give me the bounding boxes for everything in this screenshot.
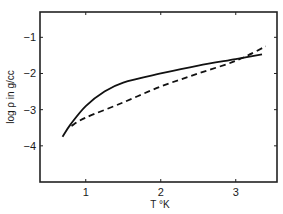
x-axis-label: T °K xyxy=(150,199,170,210)
y-tick-label: −4 xyxy=(23,140,36,152)
ticks xyxy=(40,12,277,182)
x-tick-label: 1 xyxy=(83,186,89,198)
tick-labels: 123−1−2−3−4 xyxy=(23,31,238,198)
x-tick-label: 2 xyxy=(158,186,164,198)
x-tick-label: 3 xyxy=(233,186,239,198)
y-tick-label: −3 xyxy=(23,104,36,116)
plot-frame xyxy=(40,12,277,182)
y-axis-label: log ρ in g/cc xyxy=(5,70,16,124)
y-tick-label: −1 xyxy=(23,31,36,43)
chart: 123−1−2−3−4 T °K log ρ in g/cc xyxy=(0,0,283,214)
series xyxy=(63,46,266,136)
y-tick-label: −2 xyxy=(23,67,36,79)
series-solid-line xyxy=(63,54,263,136)
